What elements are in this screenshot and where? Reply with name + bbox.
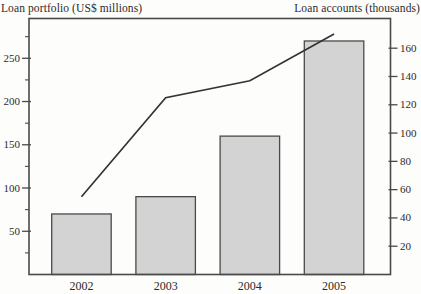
- x-axis-label-2002: 2002: [69, 279, 93, 293]
- right-axis-tick-label-140: 140: [400, 70, 417, 82]
- left-axis-tick-label-150: 150: [4, 138, 21, 150]
- right-axis-tick-label-160: 160: [400, 42, 417, 54]
- right-axis-tick-label-60: 60: [400, 183, 412, 195]
- x-axis-label-2005: 2005: [322, 279, 346, 293]
- chart-canvas: 5010015020025020406080100120140160200220…: [0, 0, 421, 294]
- right-axis-tick-label-20: 20: [400, 240, 412, 252]
- right-axis-tick-label-100: 100: [400, 127, 417, 139]
- x-axis-label-2003: 2003: [154, 279, 178, 293]
- loan-accounts-line: [81, 34, 334, 197]
- left-axis-tick-label-250: 250: [4, 52, 21, 64]
- left-axis-tick-label-100: 100: [4, 182, 21, 194]
- right-axis-tick-label-120: 120: [400, 98, 417, 110]
- bar-2005: [304, 41, 364, 275]
- right-axis-tick-label-80: 80: [400, 155, 412, 167]
- right-axis-tick-label-40: 40: [400, 211, 412, 223]
- left-axis-tick-label-50: 50: [9, 225, 21, 237]
- bar-2004: [220, 136, 280, 274]
- bar-2002: [52, 214, 111, 275]
- left-axis-tick-label-200: 200: [4, 95, 21, 107]
- x-axis-label-2004: 2004: [238, 279, 262, 293]
- bar-2003: [136, 197, 196, 275]
- figure: Loan portfolio (US$ millions) Loan accou…: [0, 0, 421, 294]
